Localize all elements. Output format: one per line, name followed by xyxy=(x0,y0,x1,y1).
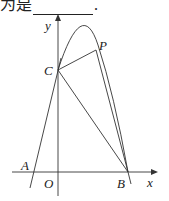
segment-pb xyxy=(96,50,128,172)
point-a-label: A xyxy=(20,158,29,173)
y-axis-arrow-icon xyxy=(55,14,61,21)
origin-label: O xyxy=(44,176,54,191)
point-b-label: B xyxy=(117,176,125,191)
y-axis-label: y xyxy=(43,18,51,33)
parabola-extension xyxy=(128,172,131,184)
segment-cb xyxy=(58,70,128,172)
x-axis-label: x xyxy=(146,175,153,190)
point-c-label: C xyxy=(44,63,53,78)
point-p-label: P xyxy=(98,38,107,53)
parabola xyxy=(58,25,128,172)
geometry-figure: y x O A B C P xyxy=(0,0,169,201)
